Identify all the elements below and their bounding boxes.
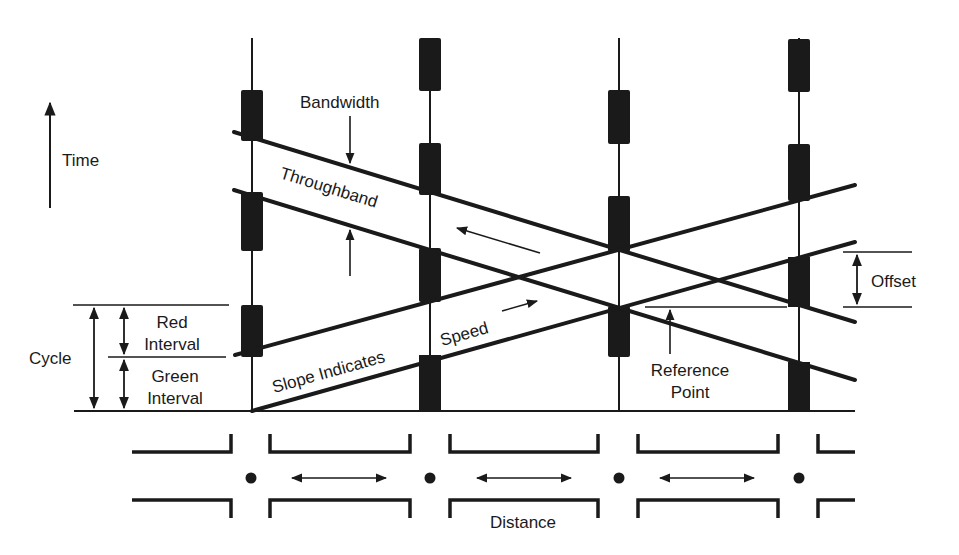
curb-top-1 [132,434,231,452]
red-block-i4 [788,362,810,411]
bandwidth-label: Bandwidth [300,93,379,112]
red-block-i2 [419,38,441,91]
red-block-i3 [608,306,630,357]
time-label: Time [62,151,99,170]
curb-top-2 [270,434,410,452]
cycle-label: Cycle [29,349,72,368]
reference-point-label-1: Reference [651,361,729,380]
eastbound-direction-arrow-icon [502,301,537,311]
green-interval-label-2: Interval [147,389,203,408]
time-axis: Time [50,103,99,208]
time-space-diagram: Time Bandwidth Th [0,0,959,555]
westbound-band-upper [234,132,855,322]
red-block-i4 [788,144,810,201]
reference-point-label-2: Point [671,383,710,402]
offset-label: Offset [871,272,916,291]
red-block-i2 [419,248,441,302]
curb-top-3 [450,434,598,452]
curb-bottom-4 [638,500,778,518]
signal-dot-icon [425,473,436,484]
red-block-i3 [608,90,630,144]
red-block-i4 [788,257,810,307]
westbound-band-lower [234,190,855,380]
curb-top-4 [638,434,778,452]
green-interval-label-1: Green [151,367,198,386]
signal-dot-icon [794,473,805,484]
red-interval-label-1: Red [156,313,187,332]
red-block-i4 [788,39,810,92]
signal-dot-icon [614,473,625,484]
red-interval-label-2: Interval [144,335,200,354]
red-block-i2 [419,143,441,195]
offset-annotation: Offset [843,252,916,307]
slope-speed-annotation: Slope Indicates Speed [270,301,537,397]
curb-bottom-2 [270,500,410,518]
distance-label: Distance [490,513,556,532]
signal-dot-icon [246,473,257,484]
curb-bottom-1 [132,500,231,518]
westbound-direction-arrow-icon [457,228,540,253]
curb-bottom-5 [818,500,855,518]
red-block-i1 [241,192,263,251]
red-block-i3 [608,196,630,252]
road-plan [132,434,855,518]
curb-top-5 [818,434,855,452]
